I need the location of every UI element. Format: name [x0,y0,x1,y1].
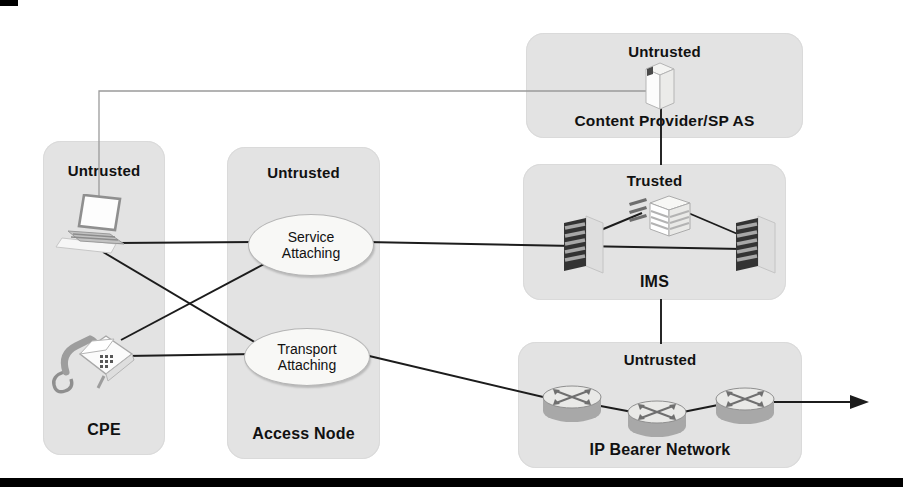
server-stack-icon [628,192,698,238]
service-attaching-ellipse: Service Attaching [248,214,374,276]
service-attaching-label: Service Attaching [271,229,351,262]
application-server-icon [641,60,679,112]
link-transport-attaching-to-router1 [365,355,556,400]
telephone-icon [48,328,138,400]
router-icon-1 [541,384,603,426]
diagram-canvas: Untrusted CPE Untrusted Access Node Untr… [0,0,903,492]
link-telephone-to-transport-attaching [126,354,258,356]
link-laptop-to-content-provider [99,91,646,204]
router-icon-2 [626,399,688,441]
laptop-icon [54,194,138,256]
east-arrowhead-icon [850,395,869,409]
link-telephone-to-service-attaching [121,262,268,340]
transport-attaching-label: Transport Attaching [264,341,350,374]
link-service-attaching-to-ims [366,242,574,246]
page-rule-bar [0,478,903,487]
switch-tower-left-icon [556,214,610,278]
switch-tower-right-icon [728,214,782,278]
scan-artifact-mark [0,0,18,6]
router-icon-3 [714,386,776,428]
transport-attaching-ellipse: Transport Attaching [244,328,370,386]
